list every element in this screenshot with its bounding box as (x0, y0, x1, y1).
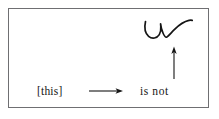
figure-label-source: [this] (37, 85, 62, 97)
figure-container: [this] is not (0, 0, 219, 119)
figure-label-target: is not (140, 85, 169, 97)
